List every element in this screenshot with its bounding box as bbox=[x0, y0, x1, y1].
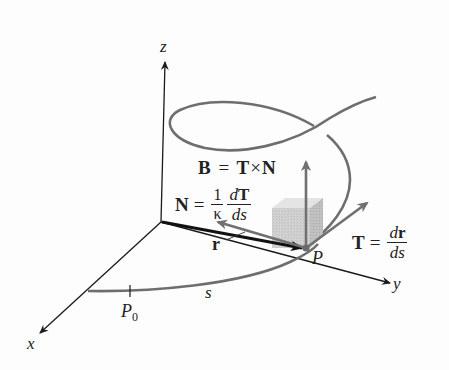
curvature-fraction: 1 κ bbox=[211, 187, 223, 222]
dt-ds-fraction: dT ds bbox=[227, 186, 251, 223]
space-curve-lower bbox=[88, 244, 318, 291]
curvature-fraction-denominator: κ bbox=[213, 205, 221, 222]
binormal-equals: = bbox=[218, 157, 229, 178]
tnb-frame-diagram: z x y P0 s P r B = T×N N = 1 κ dT ds T =… bbox=[0, 0, 449, 370]
cross-symbol: × bbox=[250, 157, 261, 178]
normal-lhs: N bbox=[175, 195, 189, 214]
p0-letter: P bbox=[121, 301, 132, 321]
binormal-lhs: B bbox=[198, 157, 211, 178]
p0-label: P0 bbox=[121, 302, 138, 323]
z-axis-label: z bbox=[160, 38, 167, 55]
y-axis-label: y bbox=[393, 275, 401, 292]
space-curve-upper bbox=[170, 97, 376, 150]
binormal-t: T bbox=[237, 157, 250, 178]
dr-ds-denominator: ds bbox=[390, 243, 405, 261]
dt-d: d bbox=[229, 185, 238, 204]
point-p-label: P bbox=[312, 249, 323, 267]
position-vector-label: r bbox=[212, 235, 220, 253]
x-axis bbox=[40, 222, 161, 333]
dr-r: r bbox=[398, 223, 406, 242]
tangent-equation: T = dr ds bbox=[352, 224, 409, 261]
dr-ds-fraction: dr ds bbox=[387, 224, 407, 261]
p0-subscript: 0 bbox=[132, 310, 138, 324]
arc-length-label: s bbox=[205, 284, 212, 301]
x-axis-label: x bbox=[27, 335, 35, 352]
diagram-graphics bbox=[0, 0, 449, 370]
dr-d: d bbox=[389, 223, 398, 242]
curvature-fraction-numerator: 1 bbox=[211, 187, 223, 205]
dt-ds-denominator: ds bbox=[232, 205, 247, 223]
tangent-equals: = bbox=[370, 233, 381, 252]
normal-equation: N = 1 κ dT ds bbox=[175, 186, 253, 223]
tangent-lhs: T bbox=[352, 233, 365, 252]
dt-ds-numerator: dT bbox=[227, 186, 251, 205]
normal-equals: = bbox=[194, 195, 205, 214]
point-p-dot bbox=[302, 244, 309, 251]
binormal-n: N bbox=[262, 157, 276, 178]
binormal-equation: B = T×N bbox=[198, 158, 276, 177]
dr-ds-numerator: dr bbox=[387, 224, 407, 243]
z-axis bbox=[161, 62, 165, 222]
dt-t: T bbox=[238, 185, 249, 204]
